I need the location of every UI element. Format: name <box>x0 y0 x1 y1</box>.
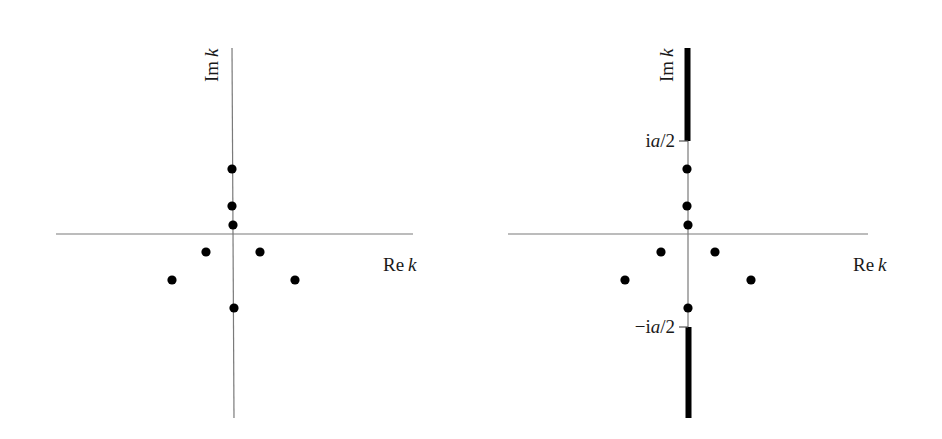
pole-point <box>620 275 629 284</box>
upper-tick-label: ia/2 <box>645 130 675 151</box>
right-im-label: Imk <box>656 48 677 82</box>
pole-point <box>229 303 238 312</box>
pole-point <box>228 220 237 229</box>
pole-point <box>227 164 236 173</box>
pole-point <box>746 275 755 284</box>
pole-point <box>656 247 665 256</box>
pole-point <box>290 275 299 284</box>
left-im-label: Imk <box>201 48 222 82</box>
pole-point <box>683 220 692 229</box>
complex-plane-figure: Rek Imk ia/2 −ia/2 Rek <box>0 0 942 439</box>
pole-point <box>227 201 236 210</box>
pole-point <box>167 275 176 284</box>
pole-point <box>682 164 691 173</box>
pole-point <box>683 303 692 312</box>
left-re-label: Rek <box>383 254 417 275</box>
left-panel: Rek Imk <box>56 48 417 418</box>
pole-point <box>710 247 719 256</box>
pole-point <box>255 247 264 256</box>
left-imag-axis <box>232 48 234 418</box>
right-re-label: Rek <box>853 254 887 275</box>
pole-point <box>682 201 691 210</box>
right-panel: ia/2 −ia/2 Rek Imk <box>508 48 887 418</box>
lower-branch-cut <box>686 327 692 418</box>
upper-branch-cut <box>685 48 691 141</box>
lower-tick-label: −ia/2 <box>635 316 675 337</box>
pole-point <box>201 247 210 256</box>
